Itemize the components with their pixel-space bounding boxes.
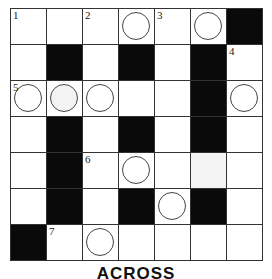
black-cell (47, 45, 83, 81)
black-cell (191, 45, 227, 81)
grid-cell[interactable] (191, 9, 227, 45)
black-cell (119, 45, 155, 81)
circle-marker-icon (50, 84, 78, 112)
grid-cell[interactable] (11, 153, 47, 189)
black-cell (11, 225, 47, 261)
grid-cell[interactable] (155, 153, 191, 189)
grid-cell[interactable]: 5 (11, 81, 47, 117)
circle-marker-icon (230, 84, 258, 112)
grid-cell[interactable] (119, 153, 155, 189)
circle-marker-icon (86, 228, 114, 256)
black-cell (119, 117, 155, 153)
grid-cell[interactable] (191, 225, 227, 261)
clue-number: 2 (85, 9, 91, 21)
grid-cell[interactable] (83, 189, 119, 225)
grid-cell[interactable] (155, 45, 191, 81)
grid-cell[interactable] (119, 81, 155, 117)
grid-cell[interactable] (119, 225, 155, 261)
grid-cell[interactable] (155, 117, 191, 153)
circle-marker-icon (194, 12, 222, 40)
grid-cell[interactable] (47, 81, 83, 117)
grid-cell[interactable] (11, 45, 47, 81)
clue-number: 6 (85, 153, 91, 165)
grid-cell[interactable] (83, 117, 119, 153)
grid-cell[interactable] (155, 225, 191, 261)
black-cell (227, 9, 263, 45)
grid-cell[interactable] (83, 81, 119, 117)
grid-cell[interactable] (83, 225, 119, 261)
grid-cell[interactable] (227, 81, 263, 117)
black-cell (119, 189, 155, 225)
clue-number: 3 (157, 9, 163, 21)
circle-marker-icon (86, 84, 114, 112)
grid-cell[interactable]: 3 (155, 9, 191, 45)
grid-cell[interactable] (47, 9, 83, 45)
grid-cell[interactable]: 7 (47, 225, 83, 261)
clue-number: 7 (49, 225, 55, 237)
clue-number: 5 (13, 81, 19, 93)
crossword-grid: 1234567 (10, 8, 263, 261)
grid-cell[interactable] (227, 117, 263, 153)
circle-marker-icon (122, 12, 150, 40)
grid-cell[interactable] (191, 153, 227, 189)
grid-cell[interactable] (83, 45, 119, 81)
clue-number: 1 (13, 9, 19, 21)
grid-cell[interactable] (155, 189, 191, 225)
black-cell (47, 117, 83, 153)
grid-cell[interactable]: 2 (83, 9, 119, 45)
black-cell (191, 189, 227, 225)
grid-cell[interactable] (119, 9, 155, 45)
grid-cell[interactable]: 1 (11, 9, 47, 45)
grid-cell[interactable] (11, 189, 47, 225)
clue-number: 4 (229, 45, 235, 57)
grid-cell[interactable] (11, 117, 47, 153)
grid-cell[interactable] (227, 153, 263, 189)
across-heading: ACROSS (0, 264, 272, 279)
grid-cell[interactable]: 6 (83, 153, 119, 189)
grid-cell[interactable] (155, 81, 191, 117)
black-cell (191, 117, 227, 153)
circle-marker-icon (122, 156, 150, 184)
circle-marker-icon (158, 192, 186, 220)
grid-cell[interactable] (227, 189, 263, 225)
grid-cell[interactable]: 4 (227, 45, 263, 81)
grid-cell[interactable] (227, 225, 263, 261)
black-cell (191, 81, 227, 117)
black-cell (47, 153, 83, 189)
black-cell (47, 189, 83, 225)
